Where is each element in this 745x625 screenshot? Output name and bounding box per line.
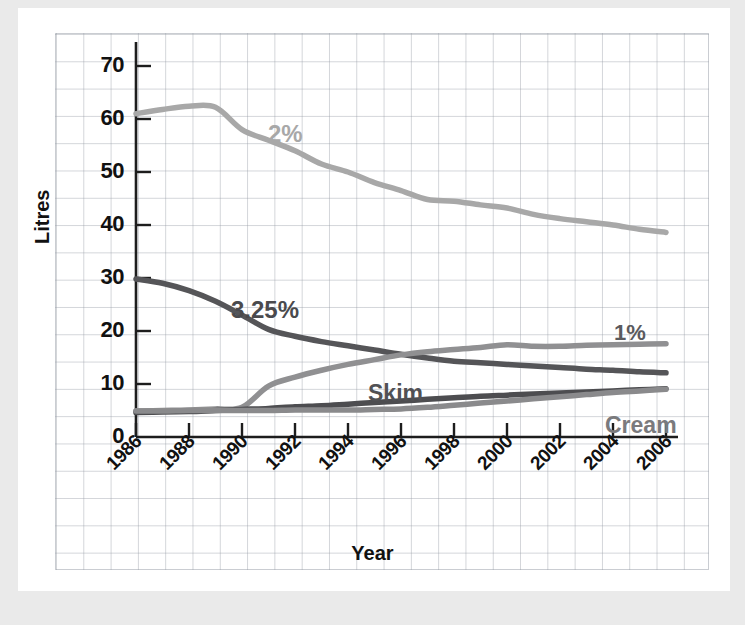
y-tick-label-60: 60 [78, 105, 124, 131]
y-tick-label-10: 10 [78, 370, 124, 396]
chart-white-panel [18, 8, 730, 591]
x-axis-title: Year [0, 542, 745, 565]
series-label-skim: Skim [368, 380, 423, 407]
y-tick-label-40: 40 [78, 211, 124, 237]
series-label-1: 1% [614, 320, 646, 346]
y-tick-label-20: 20 [78, 317, 124, 343]
chart-card: 010203040506070 198619881990199219941996… [0, 0, 745, 625]
series-label-325: 3.25% [231, 296, 299, 324]
y-tick-label-70: 70 [78, 52, 124, 78]
y-tick-label-30: 30 [78, 264, 124, 290]
series-label-2: 2% [268, 120, 303, 148]
graph-paper-grid [55, 33, 709, 570]
y-axis-title: Litres [31, 190, 54, 244]
series-label-cream: Cream [605, 412, 677, 439]
y-tick-label-50: 50 [78, 158, 124, 184]
